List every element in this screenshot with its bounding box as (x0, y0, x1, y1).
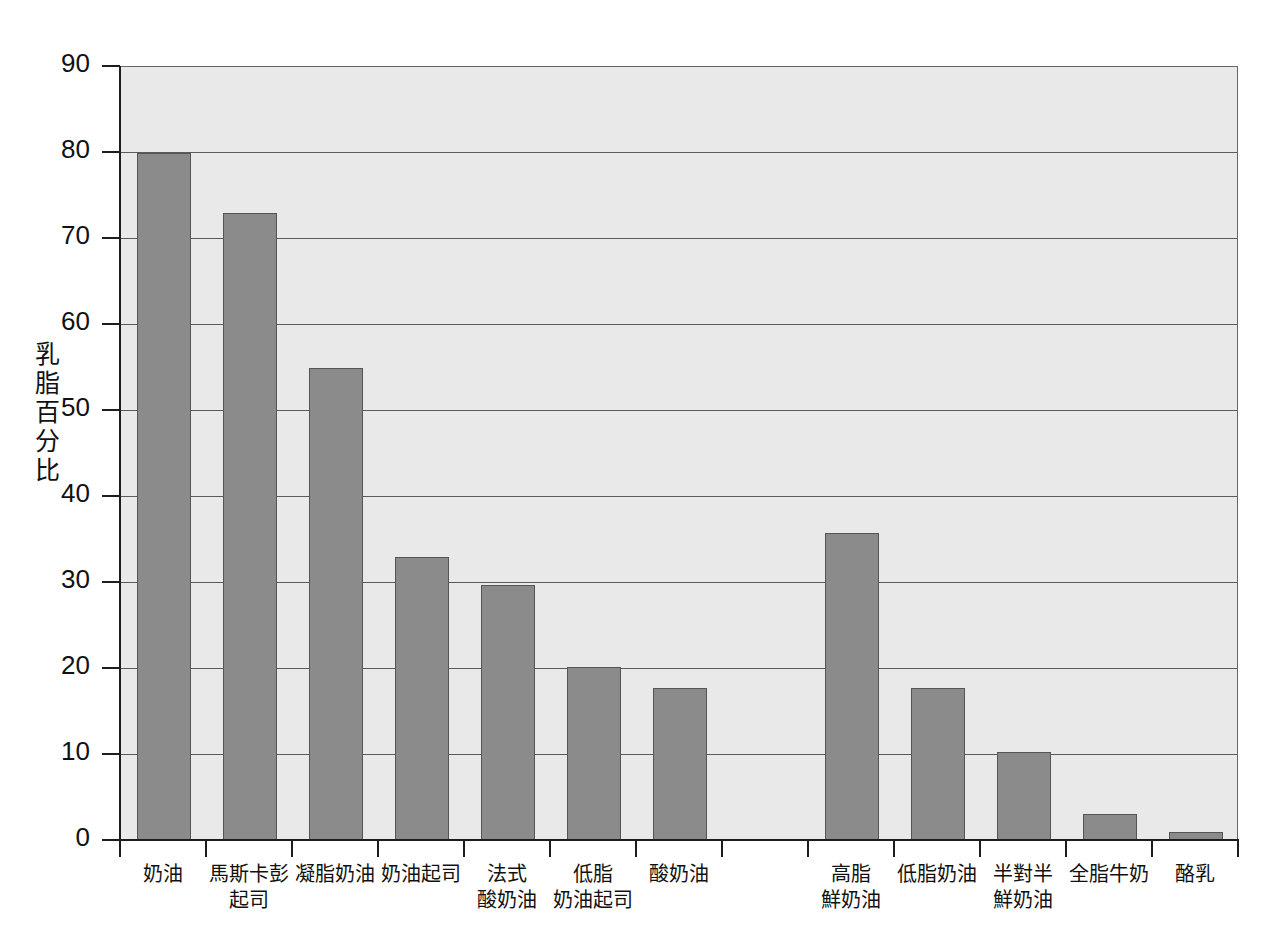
y-axis-tick-label: 0 (10, 822, 90, 853)
x-axis-tick (1237, 840, 1239, 857)
x-axis-tick (979, 840, 981, 857)
x-axis-category-label: 奶油起司 (378, 861, 464, 887)
x-axis-tick (463, 840, 465, 857)
x-axis-category-label: 高脂 鮮奶油 (808, 861, 894, 913)
y-axis-tick (102, 151, 120, 153)
x-axis-line (119, 839, 1239, 841)
y-axis-tick-label: 30 (10, 564, 90, 595)
gridline (121, 238, 1237, 239)
gridline (121, 496, 1237, 497)
bar (825, 533, 879, 841)
bar-chart: 乳脂百分比 0102030405060708090 奶油馬斯卡彭 起司凝脂奶油奶… (0, 0, 1276, 932)
bar (1083, 814, 1137, 841)
x-axis-category-label: 酪乳 (1152, 861, 1238, 887)
bar (997, 752, 1051, 841)
x-axis-tick (1151, 840, 1153, 857)
y-axis-tick-label: 40 (10, 478, 90, 509)
bar (481, 585, 535, 841)
y-axis-tick (102, 581, 120, 583)
x-axis-category-label: 半對半 鮮奶油 (980, 861, 1066, 913)
plot-area (120, 66, 1238, 840)
bar (567, 667, 621, 841)
x-axis-category-label: 低脂奶油 (894, 861, 980, 887)
x-axis-tick (893, 840, 895, 857)
y-axis-tick (102, 323, 120, 325)
y-axis-tick (102, 409, 120, 411)
x-axis-tick (721, 840, 723, 857)
x-axis-category-label: 全脂牛奶 (1066, 861, 1152, 887)
x-axis-tick (1065, 840, 1067, 857)
gridline (121, 668, 1237, 669)
y-axis-tick-label: 70 (10, 220, 90, 251)
x-axis-tick (549, 840, 551, 857)
gridline (121, 324, 1237, 325)
y-axis-tick (102, 237, 120, 239)
bar (309, 368, 363, 841)
x-axis-category-label: 馬斯卡彭 起司 (206, 861, 292, 913)
y-axis-tick (102, 839, 120, 841)
y-axis-line (119, 66, 121, 842)
y-axis-tick (102, 753, 120, 755)
x-axis-category-label: 凝脂奶油 (292, 861, 378, 887)
x-axis-tick (291, 840, 293, 857)
bar (395, 557, 449, 841)
bar (653, 688, 707, 841)
y-axis-tick-label: 10 (10, 736, 90, 767)
y-axis-tick-label: 90 (10, 48, 90, 79)
x-axis-category-label: 奶油 (120, 861, 206, 887)
y-axis-tick (102, 65, 120, 67)
y-axis-tick-label: 20 (10, 650, 90, 681)
bar (137, 153, 191, 841)
x-axis-category-label: 法式 酸奶油 (464, 861, 550, 913)
gridline (121, 152, 1237, 153)
bar (223, 213, 277, 841)
x-axis-category-label: 低脂 奶油起司 (550, 861, 636, 913)
y-axis-tick (102, 495, 120, 497)
x-axis-tick (635, 840, 637, 857)
x-axis-category-label: 酸奶油 (636, 861, 722, 887)
y-axis-tick-label: 50 (10, 392, 90, 423)
gridline (121, 410, 1237, 411)
bar (911, 688, 965, 841)
gridline (121, 582, 1237, 583)
y-axis-tick-label: 80 (10, 134, 90, 165)
y-axis-tick (102, 667, 120, 669)
x-axis-tick (205, 840, 207, 857)
y-axis-tick-label: 60 (10, 306, 90, 337)
x-axis-tick (377, 840, 379, 857)
x-axis-tick (119, 840, 121, 857)
x-axis-tick (807, 840, 809, 857)
